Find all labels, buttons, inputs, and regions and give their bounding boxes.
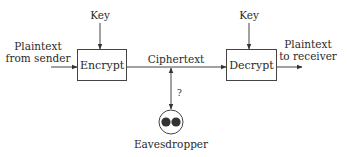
plaintext-out-label-line1: Plaintext (284, 38, 331, 50)
plaintext-in-label-line1: Plaintext (14, 40, 61, 52)
encrypt-label: Encrypt (80, 59, 124, 72)
diagram-canvas (0, 0, 348, 157)
question-mark-label: ? (177, 87, 182, 99)
decrypt-label: Decrypt (229, 59, 273, 72)
encrypt-box: Encrypt (77, 49, 127, 81)
decrypt-box: Decrypt (226, 49, 277, 81)
plaintext-in-label-line2: from sender (6, 52, 71, 64)
eavesdropper-eyes-icon (159, 110, 183, 134)
key-encrypt-label: Key (90, 9, 110, 21)
ciphertext-label: Ciphertext (148, 53, 205, 65)
key-decrypt-label: Key (239, 9, 259, 21)
plaintext-out-label-line2: to receiver (279, 50, 337, 62)
eavesdropper-label: Eavesdropper (134, 138, 208, 150)
